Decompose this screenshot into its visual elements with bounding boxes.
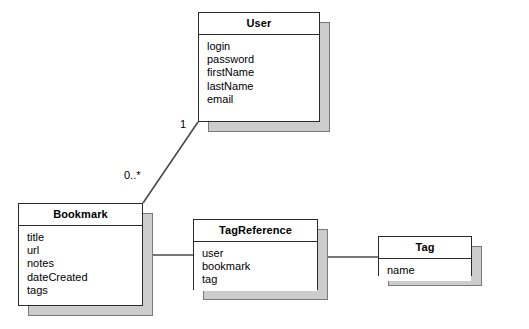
class-name-user: User	[199, 13, 319, 35]
uml-class-diagram: User login password firstName lastName e…	[0, 0, 529, 329]
attribute-item: email	[207, 93, 319, 106]
class-attributes-user: login password firstName lastName email	[199, 35, 319, 121]
attribute-item: firstName	[207, 66, 319, 79]
uml-class-bookmark[interactable]: Bookmark title url notes dateCreated tag…	[18, 203, 143, 306]
multiplicity-label-bookmark-end: 0..*	[124, 170, 141, 181]
attribute-item: name	[387, 264, 471, 277]
class-box-body: TagReference user bookmark tag	[193, 219, 318, 290]
class-name-tag: Tag	[379, 237, 471, 259]
attribute-item: dateCreated	[27, 271, 142, 284]
attribute-item: user	[202, 247, 317, 260]
attribute-item: bookmark	[202, 260, 317, 273]
attribute-item: password	[207, 53, 319, 66]
class-name-tagreference: TagReference	[194, 220, 317, 242]
class-box-body: Tag name	[378, 236, 472, 276]
attribute-item: url	[27, 244, 142, 257]
class-box-body: Bookmark title url notes dateCreated tag…	[18, 203, 143, 306]
attribute-item: tags	[27, 284, 142, 297]
class-name-bookmark: Bookmark	[19, 204, 142, 226]
attribute-item: tag	[202, 273, 317, 286]
class-box-body: User login password firstName lastName e…	[198, 12, 320, 122]
class-attributes-tag: name	[379, 259, 471, 281]
uml-class-tag[interactable]: Tag name	[378, 236, 472, 276]
uml-class-user[interactable]: User login password firstName lastName e…	[198, 12, 320, 122]
attribute-item: notes	[27, 257, 142, 270]
attribute-item: lastName	[207, 80, 319, 93]
attribute-item: login	[207, 40, 319, 53]
uml-class-tagreference[interactable]: TagReference user bookmark tag	[193, 219, 318, 290]
attribute-item: title	[27, 231, 142, 244]
association-line-user-bookmark	[143, 122, 198, 203]
class-attributes-tagreference: user bookmark tag	[194, 242, 317, 291]
class-attributes-bookmark: title url notes dateCreated tags	[19, 226, 142, 305]
multiplicity-label-user-end: 1	[180, 119, 186, 130]
